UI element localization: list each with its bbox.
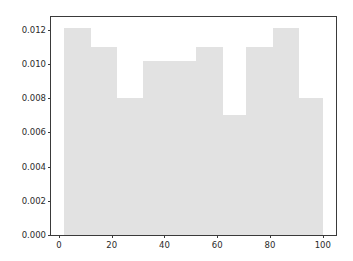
histogram-bar: [117, 98, 143, 235]
x-tick-label: 80: [265, 241, 276, 250]
histogram-bar: [91, 47, 117, 235]
y-tick-label: 0.006: [22, 128, 46, 137]
histogram-bar: [299, 98, 323, 235]
x-tick-label: 60: [212, 241, 223, 250]
y-tick-mark: [48, 235, 51, 236]
y-tick-mark: [48, 64, 51, 65]
y-tick-mark: [48, 167, 51, 168]
x-tick-mark: [112, 235, 113, 238]
histogram-bar: [143, 61, 169, 235]
x-tick-label: 20: [106, 241, 117, 250]
y-tick-label: 0.010: [22, 60, 46, 69]
x-tick-label: 40: [159, 241, 170, 250]
histogram-bar: [223, 115, 247, 235]
y-tick-label: 0.000: [22, 231, 46, 240]
y-tick-mark: [48, 201, 51, 202]
y-tick-mark: [48, 30, 51, 31]
histogram-figure: 0.0000.0020.0040.0060.0080.0100.012 0204…: [0, 0, 353, 261]
x-tick-mark: [59, 235, 60, 238]
plot-frame: 0.0000.0020.0040.0060.0080.0100.012 0204…: [50, 16, 337, 236]
histogram-bar: [273, 28, 299, 235]
x-tick-mark: [164, 235, 165, 238]
plot-area: [51, 17, 336, 235]
x-tick-mark: [270, 235, 271, 238]
x-tick-label: 0: [56, 241, 61, 250]
x-tick-label: 100: [315, 241, 331, 250]
histogram-bar: [170, 61, 196, 235]
y-tick-label: 0.002: [22, 197, 46, 206]
y-tick-label: 0.004: [22, 162, 46, 171]
x-tick-mark: [323, 235, 324, 238]
histogram-bar: [246, 47, 272, 235]
x-tick-mark: [217, 235, 218, 238]
y-tick-mark: [48, 132, 51, 133]
histogram-bar: [196, 47, 222, 235]
y-tick-label: 0.008: [22, 94, 46, 103]
y-tick-label: 0.012: [22, 26, 46, 35]
y-tick-mark: [48, 98, 51, 99]
histogram-bar: [64, 28, 90, 235]
